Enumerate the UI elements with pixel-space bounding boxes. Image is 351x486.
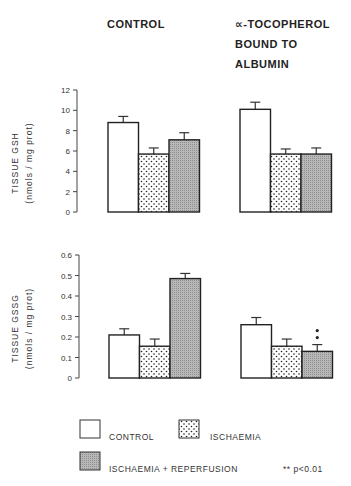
chart-gsh: 024681012TISSUE GSH(nmols / mg prot) <box>10 86 332 217</box>
bar <box>109 335 140 378</box>
bar <box>272 346 303 378</box>
bar <box>301 154 332 212</box>
y-tick-label: 0 <box>66 208 71 217</box>
y-tick-label: 0.6 <box>61 251 73 260</box>
bar <box>108 123 139 212</box>
bar <box>241 325 272 378</box>
legend-swatch-reperfusion <box>80 452 100 470</box>
y-axis-units: (nmols / mg prot) <box>24 288 34 369</box>
y-tick-label: 0.2 <box>61 333 73 342</box>
chart-canvas: 024681012TISSUE GSH(nmols / mg prot)00.1… <box>0 0 351 486</box>
y-axis-label: TISSUE GSH <box>10 132 20 193</box>
chart-gssg: 00.10.20.30.40.50.6TISSUE GSSG(nmols / m… <box>10 251 333 383</box>
y-tick-label: 2 <box>66 188 71 197</box>
y-axis-label: TISSUE GSSG <box>10 294 20 363</box>
y-tick-label: 4 <box>66 167 71 176</box>
bar <box>302 351 333 378</box>
bar <box>139 154 170 212</box>
legend-swatch-ischaemia <box>179 420 199 438</box>
y-tick-label: 0.5 <box>61 272 73 281</box>
significance-marker <box>316 329 319 332</box>
y-tick-label: 8 <box>66 127 71 136</box>
significance-marker <box>316 336 319 339</box>
legend: CONTROL ISCHAEMIA ISCHAEMIA + REPERFUSIO… <box>80 420 323 474</box>
legend-label-reperfusion: ISCHAEMIA + REPERFUSION <box>109 464 238 474</box>
significance-note: ** p<0.01 <box>283 464 323 474</box>
bar <box>240 109 271 212</box>
y-tick-label: 0 <box>68 374 73 383</box>
legend-label-control: CONTROL <box>109 432 154 442</box>
legend-label-ischaemia: ISCHAEMIA <box>210 432 261 442</box>
y-axis-units: (nmols / mg prot) <box>24 122 34 203</box>
bar <box>140 346 171 378</box>
y-tick-label: 6 <box>66 147 71 156</box>
y-tick-label: 10 <box>61 106 70 115</box>
y-tick-label: 0.1 <box>61 354 73 363</box>
bar <box>170 279 201 378</box>
y-tick-label: 0.4 <box>61 292 73 301</box>
legend-swatch-control <box>80 420 100 438</box>
bar <box>169 140 200 212</box>
y-tick-label: 12 <box>61 86 70 95</box>
y-tick-label: 0.3 <box>61 313 73 322</box>
bar <box>271 154 302 212</box>
